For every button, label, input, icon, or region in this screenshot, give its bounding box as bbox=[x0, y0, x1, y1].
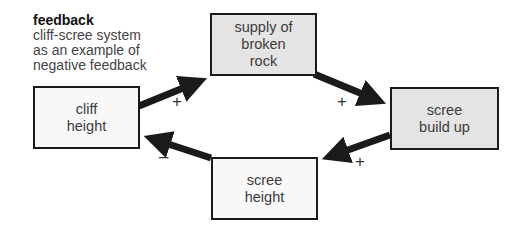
node-label: broken bbox=[234, 36, 292, 53]
node-label: cliff bbox=[67, 101, 107, 118]
node-scree-build-up: scree build up bbox=[390, 87, 499, 150]
sign-plus-supply-scree: + bbox=[337, 93, 347, 110]
node-label: supply of bbox=[234, 19, 292, 36]
node-cliff-height: cliff height bbox=[33, 86, 140, 149]
node-supply-of-broken-rock: supply of broken rock bbox=[210, 13, 317, 76]
sign-plus-cliff-supply: + bbox=[172, 93, 182, 110]
arrow-cliff-to-supply bbox=[139, 82, 198, 106]
node-label: scree bbox=[419, 102, 470, 119]
sign-plus-scree-buildup-height: + bbox=[355, 153, 365, 170]
node-label: build up bbox=[419, 119, 470, 136]
node-label: height bbox=[67, 118, 107, 135]
node-label: height bbox=[245, 189, 285, 206]
node-label: rock bbox=[234, 53, 292, 70]
node-scree-height: scree height bbox=[211, 157, 318, 220]
node-label: scree bbox=[245, 172, 285, 189]
sign-minus-height-cliff: – bbox=[159, 148, 168, 165]
